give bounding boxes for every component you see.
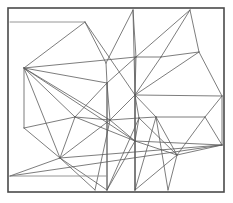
outer-rectangle-border — [8, 8, 224, 192]
line-mesh-figure — [0, 0, 233, 203]
figure-root — [0, 0, 233, 203]
